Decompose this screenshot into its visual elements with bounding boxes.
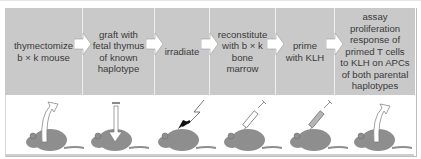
block-arrow-icon [326,32,344,56]
block-arrow-icon [74,32,92,56]
step-graft-thymus: graft with fetal thymus of known haploty… [83,8,155,95]
mouse-bone-marrow-syringe-icon [218,96,284,152]
step-label: reconstitute with b × k bone marrow [218,29,268,75]
mouse-irradiation-lightning-icon [152,96,218,152]
mouse-thymus-graft-arrow-icon [85,96,151,152]
ground-line [6,154,414,156]
step-label: thymectomize b × k mouse [14,40,73,63]
block-arrow-icon [201,32,219,56]
block-arrow-icon [146,32,164,56]
step-label: assay proliferation response of primed T… [340,11,409,92]
step-label: graft with fetal thymus of known haploty… [93,29,145,75]
mouse-klh-syringe-icon [284,96,350,152]
mouse-row [5,96,415,156]
mouse-thymus-removal-arrow-icon [20,96,86,152]
block-arrow-icon [267,32,285,56]
mouse-cell-harvest-arrow-icon [348,96,414,152]
step-label: irradiate [165,46,200,58]
step-label: prime with KLH [286,40,324,63]
top-rule [0,0,421,1]
step-thymectomize: thymectomize b × k mouse [5,8,83,95]
step-assay: assay proliferation response of primed T… [335,8,415,95]
